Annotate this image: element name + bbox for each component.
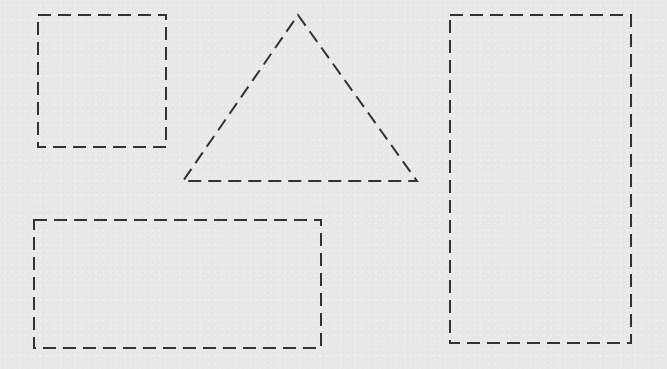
tall-rectangle-shape xyxy=(450,15,631,343)
small-square-shape xyxy=(38,15,166,147)
triangle-shape xyxy=(183,15,417,181)
shapes-layer xyxy=(0,0,667,369)
wide-rectangle-shape xyxy=(34,220,321,348)
diagram-canvas xyxy=(0,0,667,369)
